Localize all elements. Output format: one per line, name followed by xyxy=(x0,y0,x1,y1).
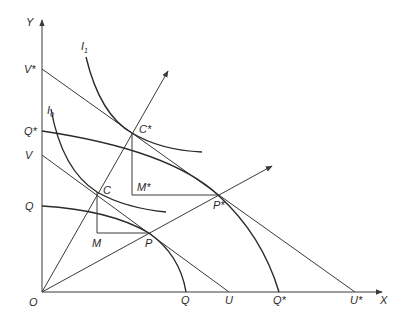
label-q-x: Q xyxy=(181,294,190,306)
price-line-v-u xyxy=(42,155,229,292)
label-u-star: U* xyxy=(350,294,363,306)
label-m-star: M* xyxy=(137,181,151,193)
x-axis-label: X xyxy=(379,294,388,306)
label-p: P xyxy=(145,237,153,249)
label-q-y: Q xyxy=(25,200,34,212)
label-m: M xyxy=(92,237,102,249)
label-p-star: P* xyxy=(213,199,225,211)
origin-label: O xyxy=(29,296,38,308)
ppf-q xyxy=(42,206,186,292)
label-i1: I1 xyxy=(81,40,88,54)
label-u: U xyxy=(225,294,233,306)
label-c-star: C* xyxy=(139,123,152,135)
label-i0: I0 xyxy=(47,104,54,118)
indifference-curve-i1 xyxy=(86,57,202,152)
label-q-star-x: Q* xyxy=(273,294,287,306)
label-v: V xyxy=(25,149,34,161)
trade-triangle xyxy=(97,192,149,233)
ray-op-star xyxy=(42,166,272,292)
ppf-diagram: Y X O V* Q* V Q Q U Q* U* I1 I0 C* C M* … xyxy=(0,0,408,326)
label-c: C xyxy=(103,184,111,196)
label-q-star-y: Q* xyxy=(24,125,38,137)
y-axis-label: Y xyxy=(26,16,34,28)
label-v-star: V* xyxy=(24,63,36,75)
